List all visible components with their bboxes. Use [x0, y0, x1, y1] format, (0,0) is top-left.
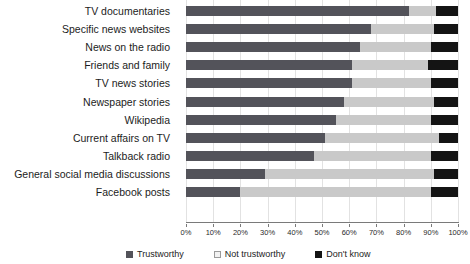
bar-segment-not-trustworthy: [360, 42, 431, 52]
bar-row: [186, 151, 458, 161]
bar-row: [186, 115, 458, 125]
bar-row: [186, 42, 458, 52]
bar-segment-dont-know: [431, 78, 458, 88]
tick-mark: [186, 224, 187, 227]
x-tick-label: 90%: [423, 228, 438, 237]
category-label: Talkback radio: [103, 150, 170, 162]
x-axis-ticks: 0%10%20%30%40%50%60%70%80%90%100%: [186, 224, 458, 238]
tick-mark: [404, 224, 405, 227]
stacked-bar-chart: TV documentariesSpecific news websitesNe…: [0, 0, 470, 264]
x-tick-label: 10%: [206, 228, 221, 237]
legend-item[interactable]: Don't know: [315, 249, 370, 259]
tick-mark: [376, 224, 377, 227]
category-label: General social media discussions: [14, 168, 170, 180]
bar-row: [186, 6, 458, 16]
bar-row: [186, 169, 458, 179]
category-label: Specific news websites: [62, 23, 170, 35]
bar-row: [186, 24, 458, 34]
legend-label: Trustworthy: [137, 249, 184, 259]
category-label: TV documentaries: [85, 5, 170, 17]
bar-segment-trustworthy: [186, 60, 352, 70]
category-label: Facebook posts: [96, 186, 170, 198]
bar-segment-dont-know: [434, 97, 458, 107]
x-axis-line: [186, 222, 459, 223]
bar-segment-dont-know: [428, 60, 458, 70]
legend-swatch-not-trustworthy-icon: [214, 251, 221, 258]
bar-segment-trustworthy: [186, 133, 325, 143]
bar-segment-trustworthy: [186, 169, 265, 179]
category-label: News on the radio: [85, 41, 170, 53]
x-tick-label: 40%: [287, 228, 302, 237]
bar-segment-not-trustworthy: [314, 151, 431, 161]
chart-legend: TrustworthyNot trustworthyDon't know: [126, 248, 370, 260]
category-axis-labels: TV documentariesSpecific news websitesNe…: [0, 0, 178, 222]
x-tick-label: 0%: [181, 228, 192, 237]
tick-mark: [268, 224, 269, 227]
category-label: Current affairs on TV: [73, 132, 170, 144]
bar-segment-not-trustworthy: [352, 78, 431, 88]
x-tick-label: 100%: [448, 228, 467, 237]
bar-segment-dont-know: [431, 151, 458, 161]
x-tick-label: 70%: [369, 228, 384, 237]
bar-segment-not-trustworthy: [409, 6, 436, 16]
legend-swatch-trustworthy-icon: [126, 251, 133, 258]
bar-segment-trustworthy: [186, 24, 371, 34]
category-label: Wikipedia: [124, 114, 170, 126]
legend-item[interactable]: Not trustworthy: [214, 249, 286, 259]
x-tick-label: 50%: [314, 228, 329, 237]
x-tick-label: 80%: [396, 228, 411, 237]
plot-area: [186, 0, 458, 222]
bar-segment-dont-know: [434, 169, 458, 179]
legend-item[interactable]: Trustworthy: [126, 249, 184, 259]
bar-segment-not-trustworthy: [344, 97, 434, 107]
bar-row: [186, 133, 458, 143]
bar-segment-not-trustworthy: [371, 24, 434, 34]
x-tick-label: 20%: [233, 228, 248, 237]
category-label: TV news stories: [95, 77, 170, 89]
bar-segment-not-trustworthy: [265, 169, 434, 179]
bar-segment-dont-know: [436, 6, 458, 16]
bar-segment-not-trustworthy: [352, 60, 428, 70]
legend-label: Not trustworthy: [225, 249, 286, 259]
legend-label: Don't know: [326, 249, 370, 259]
bar-row: [186, 187, 458, 197]
tick-mark: [213, 224, 214, 227]
bar-segment-not-trustworthy: [240, 187, 430, 197]
bar-segment-dont-know: [431, 115, 458, 125]
x-tick-label: 60%: [342, 228, 357, 237]
bar-segment-not-trustworthy: [336, 115, 431, 125]
bar-segment-trustworthy: [186, 78, 352, 88]
bar-segment-dont-know: [431, 187, 458, 197]
bar-segment-dont-know: [439, 133, 458, 143]
tick-mark: [322, 224, 323, 227]
gridline: [458, 0, 459, 222]
bar-segment-not-trustworthy: [325, 133, 439, 143]
bar-segment-trustworthy: [186, 97, 344, 107]
bar-segment-trustworthy: [186, 151, 314, 161]
bar-segment-trustworthy: [186, 6, 409, 16]
bar-segment-dont-know: [431, 42, 458, 52]
bar-segment-trustworthy: [186, 42, 360, 52]
tick-mark: [458, 224, 459, 227]
bar-segment-trustworthy: [186, 115, 336, 125]
bar-row: [186, 78, 458, 88]
category-label: Newspaper stories: [83, 96, 170, 108]
category-label: Friends and family: [84, 59, 170, 71]
tick-mark: [240, 224, 241, 227]
bar-segment-trustworthy: [186, 187, 240, 197]
bar-row: [186, 60, 458, 70]
tick-mark: [295, 224, 296, 227]
bar-segment-dont-know: [434, 24, 458, 34]
tick-mark: [431, 224, 432, 227]
tick-mark: [349, 224, 350, 227]
legend-swatch-dont-know-icon: [315, 251, 322, 258]
bar-row: [186, 97, 458, 107]
x-tick-label: 30%: [260, 228, 275, 237]
